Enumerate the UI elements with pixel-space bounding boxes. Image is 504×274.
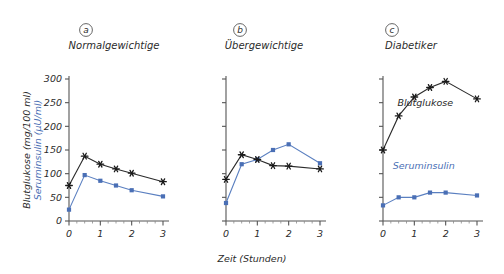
data-point-glucose-c-4 (442, 79, 449, 85)
three-panel-line-chart: aNormalgewichtige0501001502002503000123b… (0, 0, 504, 274)
data-point-insulin-c-4 (444, 191, 448, 195)
x-tick-label-c-0: 0 (380, 228, 386, 239)
data-point-insulin-a-4 (130, 188, 134, 192)
data-point-insulin-a-1 (83, 173, 87, 177)
data-point-insulin-a-5 (161, 194, 165, 198)
series-line-glucose-a (69, 156, 163, 185)
y-tick-label-150: 150 (44, 144, 62, 155)
x-tick-label-c-1: 1 (411, 228, 417, 239)
x-tick-label-a-2: 2 (129, 228, 135, 239)
series-annotation-glucose: Blutglukose (397, 97, 453, 108)
chart-panel-b: bÜbergewichtige0123 (222, 24, 326, 239)
chart-panel-c: cDiabetiker0123BlutglukoseSeruminsulin (379, 24, 483, 239)
chart-panel-a: aNormalgewichtige0501001502002503000123 (44, 24, 169, 239)
data-point-glucose-b-3 (270, 163, 277, 169)
panel-letter-c: c (390, 25, 395, 35)
figure-container: aNormalgewichtige0501001502002503000123b… (0, 0, 504, 274)
series-line-insulin-a (69, 175, 163, 210)
data-point-insulin-c-5 (475, 193, 479, 197)
data-point-glucose-a-5 (160, 179, 167, 185)
x-tick-label-a-3: 3 (160, 228, 166, 239)
panel-letter-b: b (237, 25, 243, 35)
data-point-glucose-b-1 (238, 152, 245, 158)
y-tick-label-0: 0 (56, 215, 62, 226)
x-axis-title: Zeit (Stunden) (217, 253, 287, 264)
data-point-insulin-b-0 (224, 201, 228, 205)
data-point-insulin-c-1 (397, 195, 401, 199)
data-point-insulin-a-3 (114, 183, 118, 187)
x-tick-label-b-0: 0 (223, 228, 229, 239)
data-point-glucose-b-5 (317, 166, 324, 172)
data-point-glucose-a-4 (128, 170, 135, 176)
data-point-insulin-b-5 (318, 161, 322, 165)
y-tick-label-100: 100 (44, 168, 62, 179)
panel-letter-a: a (83, 25, 89, 35)
y-axis-title-group: Blutglukose (mg/100 ml)Seruminsulin (µU/… (21, 91, 43, 209)
data-point-insulin-b-4 (287, 142, 291, 146)
x-tick-label-b-3: 3 (317, 228, 323, 239)
data-point-glucose-b-4 (285, 163, 292, 169)
data-point-insulin-c-0 (381, 203, 385, 207)
data-point-glucose-a-3 (113, 166, 120, 172)
data-point-insulin-c-2 (412, 195, 416, 199)
x-tick-label-c-2: 2 (443, 228, 449, 239)
data-point-glucose-a-1 (81, 153, 88, 159)
panel-title-a: Normalgewichtige (69, 40, 160, 51)
data-point-insulin-a-2 (98, 179, 102, 183)
x-tick-label-b-2: 2 (286, 228, 292, 239)
y-axis-title-glucose: Blutglukose (mg/100 ml) (21, 91, 32, 209)
data-point-insulin-b-3 (271, 148, 275, 152)
series-annotation-insulin: Seruminsulin (393, 160, 455, 171)
y-axis-title-insulin: Seruminsulin (µU/ml) (32, 100, 43, 201)
panel-title-b: Übergewichtige (225, 39, 303, 51)
data-point-insulin-c-3 (428, 191, 432, 195)
data-point-insulin-a-0 (67, 208, 71, 212)
y-tick-label-300: 300 (44, 73, 62, 84)
x-tick-label-a-1: 1 (97, 228, 103, 239)
y-tick-label-250: 250 (44, 97, 62, 108)
x-tick-label-a-0: 0 (66, 228, 72, 239)
data-point-insulin-b-1 (240, 162, 244, 166)
x-tick-label-b-1: 1 (254, 228, 260, 239)
y-tick-label-50: 50 (50, 192, 62, 203)
panel-title-c: Diabetiker (385, 40, 438, 51)
y-tick-label-200: 200 (44, 121, 62, 132)
x-tick-label-c-3: 3 (474, 228, 480, 239)
data-point-glucose-c-5 (474, 96, 481, 102)
data-point-glucose-a-2 (97, 161, 104, 167)
